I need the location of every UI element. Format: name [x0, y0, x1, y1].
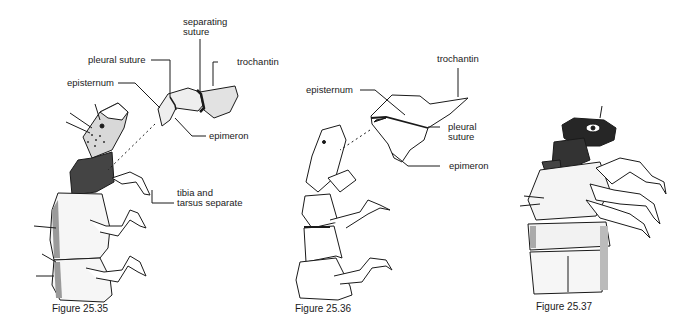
- figure-25-35-larva: [34, 39, 238, 302]
- caption-figure-25-37: Figure 25.37: [536, 301, 592, 312]
- label-trochantin: trochantin: [437, 54, 479, 64]
- label-line-2: tarsus separate: [177, 198, 242, 208]
- label-pleural-suture: pleural suture: [448, 122, 477, 142]
- caption-figure-25-36: Figure 25.36: [295, 303, 351, 314]
- label-episternum: episternum: [306, 85, 353, 95]
- label-tibia-tarsus: tibia and tarsus separate: [177, 188, 242, 208]
- label-line-2: suture: [183, 27, 227, 37]
- figure-25-36-larva: [296, 68, 468, 300]
- label-epimeron: epimeron: [209, 131, 249, 141]
- label-episternum: episternum: [67, 78, 114, 88]
- label-line-2: suture: [448, 132, 477, 142]
- figure-25-37-larva: [520, 106, 666, 294]
- caption-figure-25-35: Figure 25.35: [52, 303, 108, 314]
- label-epimeron: epimeron: [449, 161, 489, 171]
- label-trochantin: trochantin: [237, 57, 279, 67]
- label-separating-suture: separating suture: [183, 17, 227, 37]
- label-pleural-suture: pleural suture: [88, 55, 146, 65]
- illustration-canvas: [0, 0, 697, 335]
